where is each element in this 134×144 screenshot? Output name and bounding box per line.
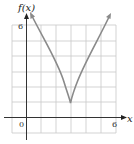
x-axis-label: x bbox=[127, 113, 133, 124]
y-axis-arrow-icon bbox=[24, 13, 29, 19]
origin-label: 0 bbox=[19, 120, 24, 129]
function-curve bbox=[32, 16, 109, 103]
x-tick-6: 6 bbox=[112, 120, 117, 129]
y-axis-label: f(x) bbox=[17, 2, 35, 13]
curve-right-arrow-icon bbox=[106, 13, 111, 19]
chart: f(x) x 6 0 6 bbox=[0, 0, 134, 144]
grid bbox=[12, 25, 116, 133]
y-tick-6: 6 bbox=[18, 22, 23, 31]
